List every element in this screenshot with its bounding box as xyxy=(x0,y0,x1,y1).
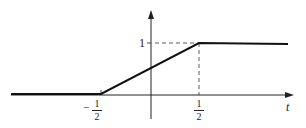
x-tick-pos-denominator: 2 xyxy=(194,111,204,122)
y-tick-label-one: 1 xyxy=(139,37,145,49)
y-axis-arrow-icon xyxy=(148,10,154,19)
x-tick-neg-numerator: 1 xyxy=(92,99,102,111)
x-axis-label: t xyxy=(286,101,289,113)
plot-area xyxy=(0,0,306,128)
x-tick-minus-sign: − xyxy=(83,101,89,113)
x-tick-neg-denominator: 2 xyxy=(92,111,102,122)
x-tick-label-pos-half: 1 2 xyxy=(194,99,204,122)
function-curve xyxy=(11,43,288,94)
x-tick-pos-numerator: 1 xyxy=(194,99,204,111)
ramp-chart: 1 − 1 2 1 2 t xyxy=(0,0,306,128)
x-tick-label-neg-half: 1 2 xyxy=(92,99,102,122)
x-axis-arrow-icon xyxy=(285,92,294,98)
